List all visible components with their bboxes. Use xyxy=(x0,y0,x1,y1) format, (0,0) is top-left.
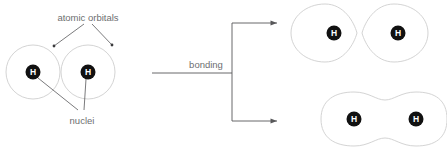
leader-dot-orbital-right xyxy=(111,44,114,47)
antibonding-lobe-left xyxy=(291,4,357,62)
leader-dot-orbital-left xyxy=(53,45,56,48)
bonding-orbital-group: H H xyxy=(321,92,447,146)
flow-arrow-top-head xyxy=(271,20,278,25)
atomic-orbitals-label: atomic orbitals xyxy=(57,12,118,23)
antibonding-orbital-group: H H xyxy=(291,4,428,62)
left-atomic-orbitals-group xyxy=(6,45,115,99)
leader-line-orbital-right xyxy=(92,24,112,45)
leader-line-orbital-left xyxy=(54,24,84,46)
atomic-orbitals-leaders xyxy=(53,24,114,47)
bonding-flow-group xyxy=(152,20,277,123)
nuclei-label: nuclei xyxy=(70,115,95,126)
nucleus-symbol-left: H xyxy=(30,67,36,77)
diagram-canvas: H H H H xyxy=(0,0,447,149)
bonding-nucleus-symbol-left: H xyxy=(351,114,357,124)
nucleus-symbol-right: H xyxy=(85,67,91,77)
antibonding-nucleus-symbol-right: H xyxy=(395,28,401,38)
orbital-bonding-diagram: H H H H xyxy=(0,0,447,149)
bonding-lobe-merged xyxy=(321,92,447,146)
flow-arrow-bottom-head xyxy=(271,118,278,123)
antibonding-nucleus-symbol-left: H xyxy=(331,28,337,38)
bonding-nucleus-symbol-right: H xyxy=(413,114,419,124)
bonding-label: bonding xyxy=(189,59,223,70)
